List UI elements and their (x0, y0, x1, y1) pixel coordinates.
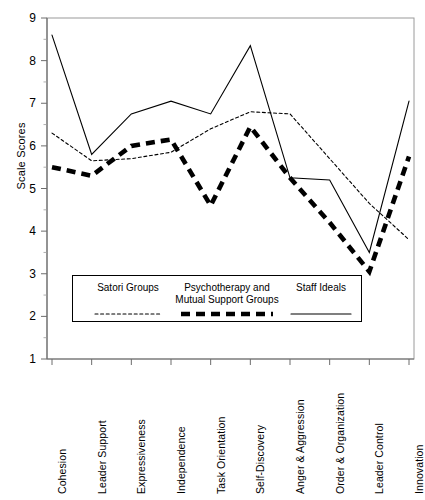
plot-area (0, 0, 425, 500)
legend-entry: Satori Groups (87, 282, 169, 294)
legend-swatch-thick-dashed (173, 309, 281, 319)
series-line-solid (52, 35, 409, 252)
chart-root: Scale Scores 987654321 CohesionLeader Su… (0, 0, 425, 500)
legend-label: Satori Groups (87, 282, 169, 294)
legend-entry: Psychotherapy andMutual Support Groups (173, 282, 281, 305)
legend-label: Mutual Support Groups (173, 294, 281, 306)
legend-swatch-solid (283, 309, 359, 319)
legend-label: Psychotherapy and (173, 282, 281, 294)
chart-legend: Satori GroupsPsychotherapy andMutual Sup… (72, 275, 362, 322)
legend-entry: Staff Ideals (283, 282, 359, 294)
series-line-dotted (52, 112, 409, 240)
legend-swatch-dotted (87, 309, 169, 319)
legend-label: Staff Ideals (283, 282, 359, 294)
series-line-thick-dashed (52, 127, 409, 272)
